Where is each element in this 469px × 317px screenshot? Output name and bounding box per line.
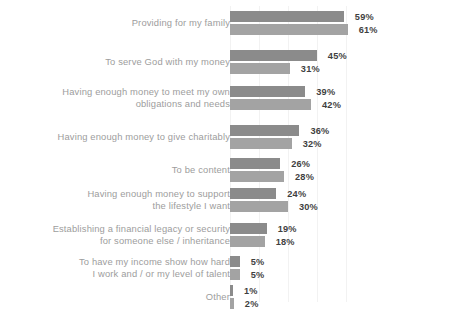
bar-series-1	[230, 256, 240, 267]
chart-plot-area: Providing for my family59%61%To serve Go…	[0, 0, 469, 317]
bar-value-label: 28%	[295, 172, 314, 182]
bar-series-2	[230, 236, 265, 247]
chart-row: Having enough money to meet my own oblig…	[0, 86, 469, 110]
category-label: Having enough money to meet my own oblig…	[6, 86, 230, 109]
chart-row: To serve God with my money45%31%	[0, 50, 469, 74]
category-label: To have my income show how hard I work a…	[6, 256, 230, 279]
bar-value-label: 5%	[251, 257, 265, 267]
chart-row: To have my income show how hard I work a…	[0, 256, 469, 280]
bar-value-label: 24%	[287, 189, 306, 199]
bar-value-label: 18%	[276, 237, 295, 247]
bar-series-1	[230, 11, 344, 22]
category-label: Other	[6, 291, 230, 303]
bar-value-label: 45%	[328, 51, 347, 61]
category-label: To serve God with my money	[6, 56, 230, 68]
chart-row: Having enough money to give charitably36…	[0, 125, 469, 149]
chart-row: Providing for my family59%61%	[0, 11, 469, 35]
bar-value-label: 5%	[251, 270, 265, 280]
bar-series-1	[230, 223, 267, 234]
bar-series-2	[230, 63, 290, 74]
chart-row: Other1%2%	[0, 285, 469, 309]
bar-value-label: 59%	[355, 12, 374, 22]
bar-series-1	[230, 50, 317, 61]
bar-value-label: 61%	[359, 25, 378, 35]
bar-series-2	[230, 24, 348, 35]
chart-row: To be content26%28%	[0, 158, 469, 182]
bar-series-2	[230, 298, 234, 309]
category-label: Establishing a financial legacy or secur…	[6, 223, 230, 246]
bar-value-label: 31%	[301, 64, 320, 74]
bar-series-2	[230, 138, 292, 149]
bar-value-label: 1%	[244, 286, 258, 296]
bar-value-label: 39%	[316, 87, 335, 97]
bar-value-label: 32%	[303, 139, 322, 149]
bar-series-2	[230, 269, 240, 280]
category-label: Providing for my family	[6, 17, 230, 29]
chart-row: Having enough money to support the lifes…	[0, 188, 469, 212]
bar-series-2	[230, 99, 311, 110]
category-label: Having enough money to give charitably	[6, 131, 230, 143]
bar-value-label: 2%	[245, 299, 259, 309]
bar-series-1	[230, 125, 299, 136]
category-label: Having enough money to support the lifes…	[6, 188, 230, 211]
bar-series-1	[230, 158, 280, 169]
bar-value-label: 36%	[310, 126, 329, 136]
bar-value-label: 30%	[299, 202, 318, 212]
bar-chart: Providing for my family59%61%To serve Go…	[0, 0, 469, 317]
bar-series-2	[230, 201, 288, 212]
bar-value-label: 19%	[278, 224, 297, 234]
bar-series-2	[230, 171, 284, 182]
bar-series-1	[230, 285, 233, 296]
bar-series-1	[230, 86, 305, 97]
chart-row: Establishing a financial legacy or secur…	[0, 223, 469, 247]
category-label: To be content	[6, 164, 230, 176]
bar-series-1	[230, 188, 276, 199]
bar-value-label: 26%	[291, 159, 310, 169]
bar-value-label: 42%	[322, 100, 341, 110]
